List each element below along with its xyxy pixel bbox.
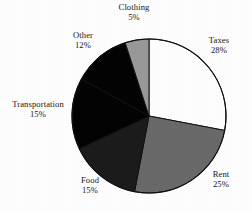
pie-label-rent-percent: 25%: [196, 180, 246, 190]
pie-label-clothing: Clothing 5%: [96, 3, 172, 22]
pie-label-taxes: Taxes 28%: [192, 36, 246, 55]
pie-label-taxes-percent: 28%: [192, 46, 246, 56]
pie-label-other: Other 12%: [56, 31, 110, 50]
pie-label-transportation: Transportation 15%: [1, 100, 75, 119]
pie-label-clothing-percent: 5%: [96, 13, 172, 23]
pie-label-rent: Rent 25%: [196, 170, 246, 189]
pie-label-food: Food 15%: [62, 176, 118, 195]
pie-label-transportation-percent: 15%: [1, 110, 75, 120]
pie-chart: Clothing 5% Taxes 28% Rent 25% Food 15% …: [0, 0, 252, 211]
pie-label-food-percent: 15%: [62, 186, 118, 196]
pie-label-other-percent: 12%: [56, 41, 110, 51]
